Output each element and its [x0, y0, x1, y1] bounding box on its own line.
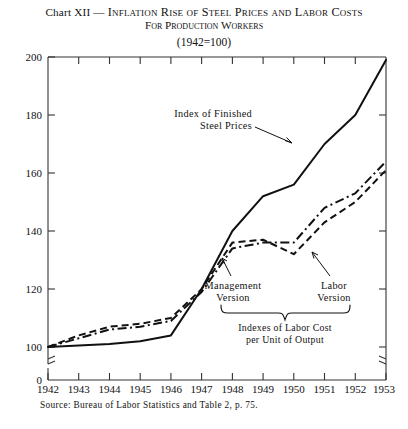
y-tick-label-160: 160 — [26, 167, 43, 179]
x-tick-label-1943: 1943 — [68, 383, 91, 395]
annotation-steel-prices-line-1: Index of Finished — [174, 108, 252, 119]
x-tick-marks — [48, 373, 386, 380]
annotation-labor-line-2: Version — [317, 292, 351, 303]
leader-line-labor — [312, 252, 330, 276]
annotation-brace-line-1: Indexes of Labor Cost — [238, 322, 332, 333]
y-tick-label-100: 100 — [26, 341, 43, 353]
annotation-management-line-1: Management — [205, 280, 262, 291]
x-tick-label-1942: 1942 — [37, 383, 59, 395]
chart-figure: Chart XII — Inflation Rise of Steel Pric… — [0, 0, 408, 429]
x-tick-label-1951: 1951 — [314, 383, 336, 395]
x-tick-label-1952: 1952 — [344, 383, 366, 395]
x-tick-label-1946: 1946 — [160, 383, 183, 395]
y-tick-label-120: 120 — [26, 283, 43, 295]
x-tick-label-1944: 1944 — [99, 383, 122, 395]
x-tick-label-1949: 1949 — [252, 383, 275, 395]
source-note: Source: Bureau of Labor Statistics and T… — [40, 400, 258, 410]
right-axis-break-icon — [379, 356, 386, 364]
series-line-steel-prices — [48, 60, 386, 347]
curly-brace-labor-cost — [221, 305, 350, 320]
y-tick-label-180: 180 — [26, 109, 43, 121]
annotation-brace-line-2: per Unit of Output — [246, 334, 324, 345]
x-tick-label-1950: 1950 — [283, 383, 306, 395]
x-tick-label-1945: 1945 — [129, 383, 152, 395]
chart-plot-area: 200 180 160 140 120 100 0 1942 1943 1944… — [0, 0, 408, 429]
x-tick-label-1947: 1947 — [191, 383, 214, 395]
x-tick-label-1953: 1953 — [373, 383, 396, 395]
y-tick-marks — [48, 57, 55, 347]
annotation-management-line-2: Version — [216, 292, 250, 303]
x-tick-marks-top — [79, 57, 356, 64]
series-line-labor-version — [48, 161, 386, 347]
y-tick-label-200: 200 — [26, 51, 43, 63]
x-tick-label-1948: 1948 — [221, 383, 244, 395]
y-tick-label-140: 140 — [26, 225, 43, 237]
y-axis-break-icon — [48, 356, 55, 364]
annotation-steel-prices-line-2: Steel Prices — [200, 120, 252, 131]
annotation-labor-line-1: Labor — [321, 280, 347, 291]
y-tick-marks-right — [379, 115, 386, 347]
